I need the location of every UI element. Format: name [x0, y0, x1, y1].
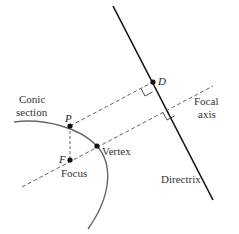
point-p-label: P — [64, 112, 72, 124]
focus-label: Focus — [61, 167, 87, 179]
vertex-dot — [94, 143, 99, 148]
point-p-dot — [67, 123, 72, 128]
point-f-label: F — [58, 153, 66, 165]
vertex-label: Vertex — [102, 145, 131, 157]
focal-axis-label-line2: axis — [198, 108, 216, 120]
conic-section-label-line1: Conic — [19, 93, 45, 105]
p-to-d-line — [70, 82, 153, 126]
point-f-dot — [67, 157, 72, 162]
directrix-label: Directrix — [161, 173, 201, 185]
point-d-label: D — [157, 75, 166, 87]
point-d-dot — [150, 79, 155, 84]
focal-axis-label-line1: Focal — [194, 95, 218, 107]
conic-diagram: Conic section P F Focus Vertex D Focal a… — [0, 0, 239, 234]
right-angle-marker-d — [141, 89, 153, 97]
conic-section-label-line2: section — [16, 106, 48, 118]
